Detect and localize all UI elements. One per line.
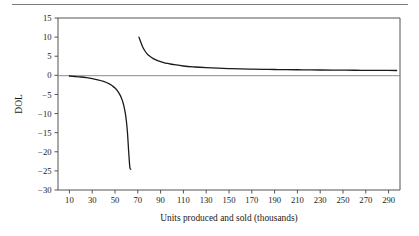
x-tick-label: 170 xyxy=(245,195,258,205)
y-axis-ticks: 151050−5−10−15−20−25−30 xyxy=(38,13,58,195)
x-tick-label: 270 xyxy=(359,195,372,205)
x-tick-label: 30 xyxy=(88,195,97,205)
dol-line-chart: 151050−5−10−15−20−25−30 1030507090110130… xyxy=(0,0,419,236)
series-below-breakeven xyxy=(69,76,130,169)
x-axis-title: Units produced and sold (thousands) xyxy=(160,213,297,224)
y-tick-label: −25 xyxy=(38,166,51,176)
y-axis-title: DOL xyxy=(14,94,24,114)
series-above-breakeven xyxy=(139,37,397,70)
y-tick-label: −10 xyxy=(38,109,51,119)
y-tick-label: 10 xyxy=(43,32,52,42)
x-tick-label: 250 xyxy=(337,195,350,205)
x-tick-label: 290 xyxy=(382,195,395,205)
y-tick-label: −15 xyxy=(38,128,51,138)
x-tick-label: 10 xyxy=(65,195,74,205)
y-tick-label: 0 xyxy=(47,70,51,80)
x-tick-label: 210 xyxy=(291,195,304,205)
x-tick-label: 130 xyxy=(200,195,213,205)
figure-container: 151050−5−10−15−20−25−30 1030507090110130… xyxy=(0,0,419,236)
x-tick-label: 70 xyxy=(134,195,143,205)
y-tick-label: −30 xyxy=(38,185,51,195)
x-tick-label: 150 xyxy=(223,195,236,205)
y-tick-label: 5 xyxy=(47,51,51,61)
x-tick-label: 230 xyxy=(314,195,327,205)
x-axis-ticks: 1030507090110130150170190210230250270290 xyxy=(65,190,395,205)
plot-frame xyxy=(58,18,400,190)
data-curves xyxy=(69,37,396,169)
y-tick-label: −20 xyxy=(38,147,51,157)
y-tick-label: −5 xyxy=(42,90,51,100)
x-tick-label: 110 xyxy=(177,195,190,205)
x-tick-label: 190 xyxy=(268,195,281,205)
y-tick-label: 15 xyxy=(43,13,52,23)
x-tick-label: 50 xyxy=(111,195,120,205)
x-tick-label: 90 xyxy=(156,195,165,205)
